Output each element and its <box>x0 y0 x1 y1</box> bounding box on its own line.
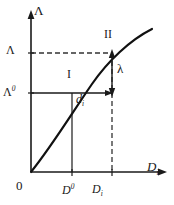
y-tick-label-lambda-zero-superscript: 0 <box>12 84 16 93</box>
x-axis-label-subscript: i <box>156 168 158 177</box>
x-axis-label-base: D <box>147 159 156 174</box>
x-tick-label-d-zero-base: D <box>62 183 71 197</box>
point-label-ii: II <box>104 28 112 40</box>
d-i-increment-label: di <box>76 93 84 108</box>
x-axis-label: Di <box>147 160 159 177</box>
x-tick-label-d-zero-superscript: 0 <box>71 182 75 191</box>
lambda-increment-label: λ <box>117 62 123 75</box>
point-label-i: I <box>67 68 71 80</box>
plot-figure: Λ Di Λ Λ0 D0 Di 0 I II λ di <box>0 0 174 205</box>
x-tick-label-d-i-base: D <box>92 182 101 196</box>
y-tick-label-lambda-zero-base: Λ <box>3 85 12 99</box>
x-axis-arrowhead <box>158 169 167 176</box>
lambda-increment-arrowhead-up <box>109 49 115 58</box>
y-tick-label-lambda: Λ <box>6 44 15 56</box>
d-i-increment-label-subscript: i <box>82 99 84 108</box>
x-tick-label-d-i: Di <box>92 183 103 198</box>
x-tick-label-d-zero: D0 <box>62 183 74 196</box>
origin-label: 0 <box>16 179 23 192</box>
y-tick-label-lambda-zero: Λ0 <box>3 85 15 98</box>
lambda-curve <box>31 29 152 172</box>
x-tick-label-d-i-subscript: i <box>101 189 103 198</box>
y-axis-label: Λ <box>34 4 43 17</box>
